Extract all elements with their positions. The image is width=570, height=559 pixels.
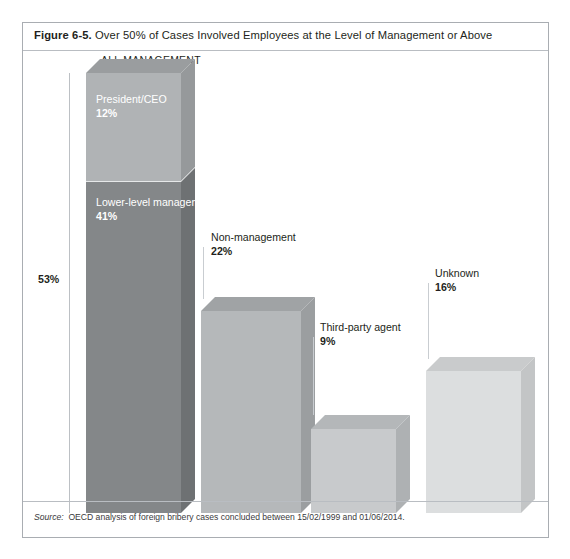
figure-title: Over 50% of Cases Involved Employees at … (95, 29, 492, 41)
figure-number: Figure 6-5. (34, 29, 92, 41)
segment-value-lower-level-management: 41% (96, 210, 117, 222)
bar-segment-president-ceo[interactable]: President/CEO 12% (86, 73, 181, 181)
bar-all-management[interactable]: President/CEO 12% Lower-level management… (86, 73, 181, 513)
bar-side-face-third-party-agent (396, 415, 411, 513)
bar-non-management[interactable] (201, 311, 301, 513)
callout-third-party-agent: Third-party agent 9% (320, 321, 401, 349)
figure-title-bar: Figure 6-5. Over 50% of Cases Involved E… (23, 23, 548, 51)
bar-side-face-unknown (521, 357, 536, 513)
callout-value-third-party-agent: 9% (320, 335, 335, 347)
segment-front-face-lower-level-management (86, 182, 181, 513)
bracket-line-all-management (69, 73, 70, 513)
callout-non-management: Non-management 22% (211, 231, 296, 259)
callout-value-unknown: 16% (435, 281, 456, 293)
segment-front-face-president-ceo (86, 73, 181, 181)
callout-unknown: Unknown 16% (435, 267, 479, 295)
chart-plot-area: ALL MANAGEMENT 53% President/CEO 12% (23, 51, 548, 501)
figure-frame: Figure 6-5. Over 50% of Cases Involved E… (22, 22, 549, 538)
source-note: Source: OECD analysis of foreign bribery… (34, 512, 405, 522)
page-title: Figure 6-5. Over 50% of Cases Involved E… (34, 29, 492, 41)
figure-source-bar: Source: OECD analysis of foreign bribery… (23, 501, 548, 537)
leader-line-third-party-agent (313, 337, 314, 415)
bracket-value-53: 53% (38, 273, 59, 285)
leader-line-unknown (428, 283, 429, 359)
leader-line-non-management (203, 247, 204, 299)
segment-label-lower-level-management: Lower-level management 41% (96, 196, 215, 223)
bar-segment-lower-level-management[interactable]: Lower-level management 41% (86, 182, 181, 513)
segment-side-face-president-ceo (181, 59, 196, 181)
bar-front-face-non-management (201, 311, 301, 513)
source-label: Source: (34, 512, 64, 522)
segment-value-president-ceo: 12% (96, 107, 117, 119)
segment-label-president-ceo: President/CEO 12% (96, 93, 167, 120)
bar-unknown[interactable] (426, 371, 521, 513)
callout-value-non-management: 22% (211, 245, 232, 257)
bar-front-face-unknown (426, 371, 521, 513)
source-description: OECD analysis of foreign bribery cases c… (68, 512, 404, 522)
